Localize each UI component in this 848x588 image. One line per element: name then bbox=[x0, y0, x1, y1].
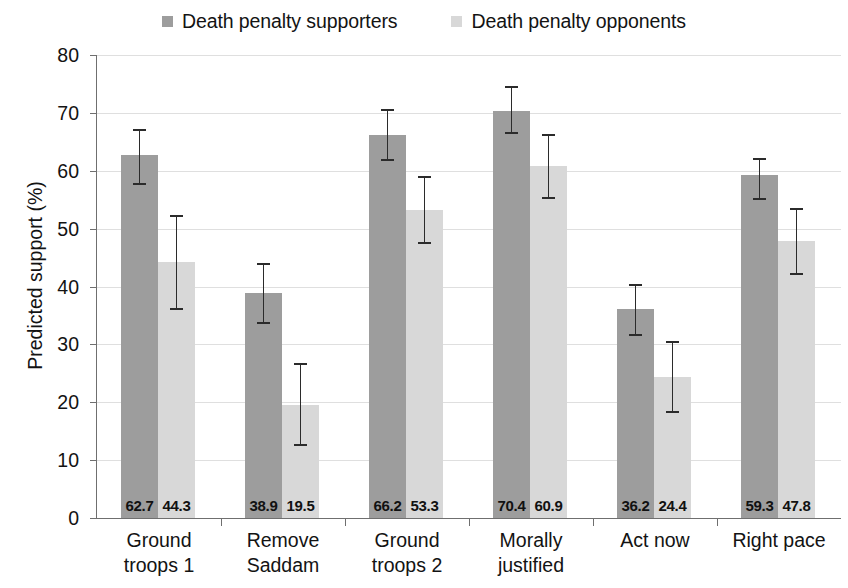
bar-value-label: 53.3 bbox=[406, 497, 443, 514]
x-tick-label-line: Act now bbox=[593, 528, 717, 553]
x-tick-label-line: Ground bbox=[345, 528, 469, 553]
error-bar bbox=[759, 158, 760, 200]
error-bar bbox=[139, 129, 140, 185]
error-bar-cap-bottom bbox=[257, 322, 270, 324]
y-tick-mark: 30 bbox=[90, 344, 97, 345]
y-tick-label: 80 bbox=[57, 44, 79, 67]
error-bar-cap-bottom bbox=[505, 132, 518, 134]
error-bar bbox=[387, 109, 388, 161]
bar[interactable] bbox=[121, 155, 158, 518]
x-tick-label-line: troops 2 bbox=[345, 553, 469, 578]
x-tick-label-line: Right pace bbox=[717, 528, 841, 553]
error-bar-cap-bottom bbox=[666, 411, 679, 413]
bar-value-label: 59.3 bbox=[741, 497, 778, 514]
y-tick-label: 50 bbox=[57, 217, 79, 240]
y-tick-label: 10 bbox=[57, 449, 79, 472]
bar-value-label: 47.8 bbox=[778, 497, 815, 514]
bar[interactable] bbox=[369, 135, 406, 518]
error-bar-cap-bottom bbox=[629, 334, 642, 336]
plot-area: 01020304050607080 62.744.338.919.566.253… bbox=[97, 55, 841, 518]
x-tick-label: Morallyjustified bbox=[469, 528, 593, 578]
bar-value-label: 70.4 bbox=[493, 497, 530, 514]
error-bar-cap-top bbox=[294, 363, 307, 365]
error-bar-cap-top bbox=[133, 129, 146, 131]
error-bar bbox=[796, 208, 797, 275]
x-tick-label: Right pace bbox=[717, 528, 841, 553]
bar-value-label: 44.3 bbox=[158, 497, 195, 514]
chart-legend: Death penalty supporters Death penalty o… bbox=[0, 6, 848, 36]
error-bar bbox=[548, 134, 549, 199]
error-bar-cap-bottom bbox=[133, 183, 146, 185]
bar-chart-figure: Death penalty supporters Death penalty o… bbox=[0, 0, 848, 588]
error-bar-cap-top bbox=[666, 341, 679, 343]
error-bar-cap-bottom bbox=[381, 159, 394, 161]
legend-item-supporters: Death penalty supporters bbox=[162, 10, 397, 33]
bar[interactable] bbox=[741, 175, 778, 518]
error-bar-cap-bottom bbox=[753, 198, 766, 200]
bar-group: 70.460.9 bbox=[469, 55, 593, 518]
bar-group: 38.919.5 bbox=[221, 55, 345, 518]
error-bar-cap-top bbox=[790, 208, 803, 210]
legend-label-opponents: Death penalty opponents bbox=[471, 10, 686, 33]
y-tick-label: 40 bbox=[57, 275, 79, 298]
x-tick-mark bbox=[593, 518, 594, 526]
x-tick-label: Groundtroops 2 bbox=[345, 528, 469, 578]
error-bar-cap-bottom bbox=[418, 242, 431, 244]
bar[interactable] bbox=[778, 241, 815, 518]
bar[interactable] bbox=[617, 309, 654, 519]
error-bar-cap-bottom bbox=[790, 273, 803, 275]
y-tick-mark: 80 bbox=[90, 55, 97, 56]
bar-group: 66.253.3 bbox=[345, 55, 469, 518]
x-tick-label-line: Ground bbox=[97, 528, 221, 553]
y-tick-label: 20 bbox=[57, 391, 79, 414]
x-tick-label-line: Morally bbox=[469, 528, 593, 553]
x-tick-label: Groundtroops 1 bbox=[97, 528, 221, 578]
error-bar-cap-top bbox=[418, 176, 431, 178]
y-tick-label: 30 bbox=[57, 333, 79, 356]
bar-value-label: 38.9 bbox=[245, 497, 282, 514]
y-axis-title: Predicted support (%) bbox=[24, 66, 47, 486]
y-tick-label: 60 bbox=[57, 159, 79, 182]
x-axis-labels: Groundtroops 1RemoveSaddamGroundtroops 2… bbox=[97, 528, 841, 586]
error-bar-cap-top bbox=[170, 215, 183, 217]
bar[interactable] bbox=[493, 111, 530, 518]
y-tick-mark: 70 bbox=[90, 113, 97, 114]
error-bar-cap-top bbox=[753, 158, 766, 160]
bar-value-label: 60.9 bbox=[530, 497, 567, 514]
legend-item-opponents: Death penalty opponents bbox=[451, 10, 686, 33]
legend-swatch-supporters bbox=[162, 16, 173, 27]
x-tick-label-line: troops 1 bbox=[97, 553, 221, 578]
bar[interactable] bbox=[406, 210, 443, 518]
bar-value-label: 62.7 bbox=[121, 497, 158, 514]
error-bar bbox=[511, 86, 512, 135]
bar-value-label: 24.4 bbox=[654, 497, 691, 514]
bar-group: 59.347.8 bbox=[717, 55, 841, 518]
x-tick-mark bbox=[221, 518, 222, 526]
error-bar-cap-top bbox=[505, 86, 518, 88]
x-tick-label: RemoveSaddam bbox=[221, 528, 345, 578]
error-bar-cap-bottom bbox=[542, 197, 555, 199]
bar-group: 62.744.3 bbox=[97, 55, 221, 518]
x-tick-mark bbox=[345, 518, 346, 526]
y-tick-mark: 0 bbox=[90, 518, 97, 519]
y-tick-mark: 60 bbox=[90, 171, 97, 172]
x-tick-label-line: Saddam bbox=[221, 553, 345, 578]
y-tick-mark: 50 bbox=[90, 229, 97, 230]
x-tick-label: Act now bbox=[593, 528, 717, 553]
x-tick-label-line: justified bbox=[469, 553, 593, 578]
legend-label-supporters: Death penalty supporters bbox=[182, 10, 397, 33]
error-bar bbox=[672, 341, 673, 413]
error-bar bbox=[263, 263, 264, 324]
bar[interactable] bbox=[530, 166, 567, 518]
error-bar-cap-top bbox=[257, 263, 270, 265]
y-tick-mark: 40 bbox=[90, 287, 97, 288]
y-tick-label: 0 bbox=[68, 507, 79, 530]
error-bar-cap-top bbox=[629, 284, 642, 286]
x-tick-mark bbox=[717, 518, 718, 526]
bar[interactable] bbox=[245, 293, 282, 518]
error-bar-cap-top bbox=[381, 109, 394, 111]
error-bar bbox=[424, 176, 425, 244]
y-tick-mark: 20 bbox=[90, 402, 97, 403]
bar-value-label: 19.5 bbox=[282, 497, 319, 514]
error-bar bbox=[176, 215, 177, 310]
